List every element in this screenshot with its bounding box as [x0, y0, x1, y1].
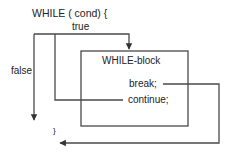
true-label: true	[72, 22, 89, 32]
false-label: false	[11, 66, 32, 76]
closing-brace: }	[53, 127, 56, 135]
while-header-text: WHILE ( cond) {	[32, 8, 107, 19]
true-path-arrow	[34, 34, 129, 49]
break-path-arrow	[60, 84, 219, 143]
continue-path-line	[55, 34, 123, 100]
continue-statement-label: continue;	[128, 95, 169, 105]
while-block-label: WHILE-block	[102, 56, 160, 66]
while-loop-flow-diagram	[0, 0, 232, 160]
break-statement-label: break;	[129, 79, 157, 89]
